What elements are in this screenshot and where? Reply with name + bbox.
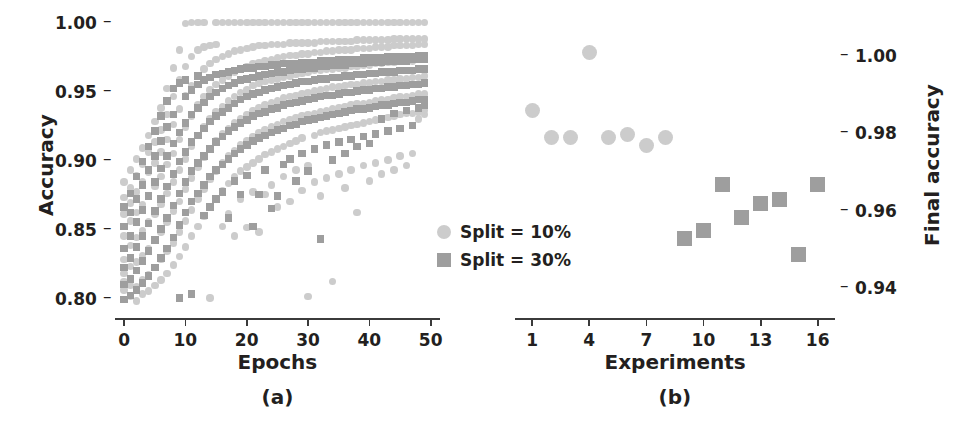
data-point-circle — [353, 209, 361, 217]
data-point-circle — [157, 276, 165, 284]
data-point-square — [715, 177, 730, 192]
panel-b-x-tick-label: 10 — [692, 330, 716, 350]
data-point-circle — [525, 103, 540, 118]
data-point-square — [298, 150, 306, 158]
data-point-square — [188, 290, 196, 298]
data-point-square — [421, 96, 429, 104]
data-point-circle — [182, 243, 190, 251]
data-point-square — [151, 236, 159, 244]
panel-a-x-tick-mark — [369, 319, 371, 326]
data-point-square — [145, 272, 153, 280]
data-point-square — [772, 192, 787, 207]
data-point-square — [163, 97, 171, 105]
panel-b-x-tick-mark — [760, 319, 762, 326]
panel-b-x-axis-label: Experiments — [605, 350, 746, 374]
data-point-square — [127, 275, 135, 283]
data-point-square — [243, 172, 251, 180]
data-point-square — [372, 130, 380, 138]
data-point-circle — [176, 46, 184, 54]
panel-a-x-tick-label: 30 — [296, 330, 320, 350]
panel-b-plot-area — [515, 14, 835, 316]
data-point-square — [188, 198, 196, 206]
data-point-square — [120, 264, 128, 272]
data-point-circle — [409, 150, 417, 158]
data-point-square — [139, 206, 147, 214]
data-point-square — [139, 257, 147, 265]
data-point-square — [170, 140, 178, 148]
panel-a-y-tick-label: 0.90 — [55, 151, 97, 171]
data-point-square — [329, 156, 337, 164]
data-point-square — [170, 234, 178, 242]
data-point-circle — [231, 232, 239, 240]
panel-a-plot-area — [115, 14, 440, 316]
panel-a-y-tick-label: 1.00 — [55, 13, 97, 33]
data-point-square — [139, 181, 147, 189]
data-point-square — [176, 158, 184, 166]
data-point-square — [200, 152, 208, 160]
data-point-square — [311, 145, 319, 153]
data-point-square — [286, 155, 294, 163]
panel-a-x-tick-mark — [246, 319, 248, 326]
data-point-square — [212, 195, 220, 203]
panel-a-x-tick-label: 10 — [174, 330, 198, 350]
data-point-square — [133, 173, 141, 181]
data-point-square — [170, 202, 178, 210]
data-point-square — [734, 210, 749, 225]
data-point-square — [145, 166, 153, 174]
data-point-circle — [280, 173, 288, 181]
panel-b-y-axis-label: Final accuracy — [920, 84, 944, 246]
data-point-square — [176, 129, 184, 137]
panel-b-x-tick-label: 1 — [526, 330, 538, 350]
data-point-circle — [170, 64, 178, 72]
panel-a-x-tick-mark — [185, 319, 187, 326]
data-point-circle — [403, 162, 411, 170]
data-point-square — [261, 166, 269, 174]
data-point-circle — [601, 130, 616, 145]
data-point-square — [157, 165, 165, 173]
panel-b-x-tick-mark — [646, 319, 648, 326]
data-point-square — [157, 137, 165, 145]
data-point-square — [182, 119, 190, 127]
data-point-circle — [182, 63, 190, 71]
data-point-circle — [200, 19, 208, 27]
data-point-circle — [298, 187, 306, 195]
panel-a-y-tick-mark: – — [103, 219, 112, 236]
data-point-square — [188, 111, 196, 119]
data-point-square — [163, 214, 171, 222]
data-point-square — [200, 181, 208, 189]
data-point-square — [335, 138, 343, 146]
data-point-circle — [145, 287, 153, 295]
data-point-square — [127, 209, 135, 217]
panel-a-y-tick-label: 0.95 — [55, 82, 97, 102]
data-point-square — [188, 138, 196, 146]
panel-b-x-tick-mark — [703, 319, 705, 326]
data-point-square — [151, 178, 159, 186]
data-point-square — [163, 152, 171, 160]
data-point-circle — [157, 104, 165, 112]
panel-b-y-tick-label: 1.00 — [855, 46, 897, 66]
panel-a-x-tick-label: 20 — [235, 330, 259, 350]
data-point-square — [139, 158, 147, 166]
data-point-circle — [317, 192, 325, 200]
data-point-square — [151, 127, 159, 135]
data-point-square — [323, 141, 331, 149]
data-point-square — [255, 191, 263, 199]
data-point-square — [182, 76, 190, 84]
data-point-square — [292, 177, 300, 185]
panel-a-y-tick-mark: – — [103, 288, 112, 305]
data-point-square — [237, 191, 245, 199]
data-point-circle — [620, 127, 635, 142]
data-point-square — [151, 152, 159, 160]
data-point-square — [182, 178, 190, 186]
data-point-square — [206, 145, 214, 153]
panel-b-x-axis-line — [515, 318, 835, 320]
data-point-square — [753, 196, 768, 211]
panel-b-y-tick-label: 0.96 — [855, 201, 897, 221]
data-point-square — [170, 111, 178, 119]
legend-circle-marker-icon — [437, 225, 451, 239]
panel-a-x-tick-mark — [307, 319, 309, 326]
data-point-square — [157, 112, 165, 120]
data-point-circle — [347, 166, 355, 174]
data-point-square — [151, 207, 159, 215]
panel-a-y-tick-mark: – — [103, 150, 112, 167]
